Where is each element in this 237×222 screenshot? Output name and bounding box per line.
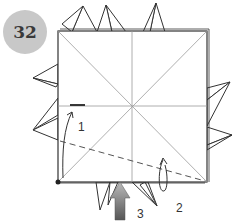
arrow-label-1: 1 [78, 120, 85, 134]
arrow-label-3: 3 [137, 207, 144, 221]
origami-diagram [0, 0, 237, 222]
arrow-label-2: 2 [176, 201, 183, 215]
corner-dot [56, 180, 61, 185]
